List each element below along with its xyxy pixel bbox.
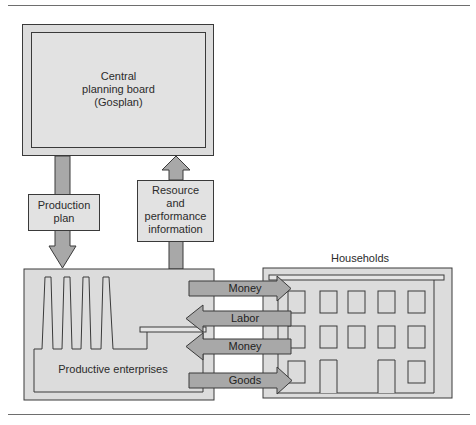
productive-enterprises-label: Productive enterprises: [48, 363, 178, 376]
households-box: [263, 268, 452, 398]
flow-label-money-1: Money: [215, 282, 275, 294]
households-label: Households: [320, 252, 400, 265]
production-plan-label: Production plan: [28, 199, 100, 225]
flow-label-goods: Goods: [215, 374, 275, 386]
flow-label-labor: Labor: [215, 312, 275, 324]
productive-enterprises-box: [24, 269, 214, 400]
resource-info-label: Resource and performance information: [137, 184, 214, 236]
flow-label-money-2: Money: [215, 340, 275, 352]
